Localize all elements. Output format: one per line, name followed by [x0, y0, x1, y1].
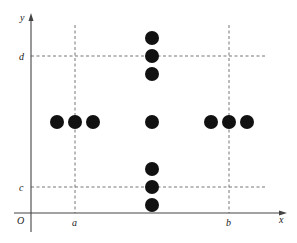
point [145, 115, 159, 129]
right-row-points [204, 115, 254, 129]
origin-label: O [17, 215, 24, 226]
point [240, 115, 254, 129]
y-axis-arrow-icon [29, 13, 34, 21]
point [145, 31, 159, 45]
x-axis-label: x [278, 214, 284, 225]
left-row-points [50, 115, 100, 129]
point [145, 180, 159, 194]
point [145, 67, 159, 81]
point [145, 49, 159, 63]
point [86, 115, 100, 129]
point [145, 162, 159, 176]
center-column-points [145, 31, 159, 212]
label-d: d [19, 51, 25, 62]
point [50, 115, 64, 129]
point [68, 115, 82, 129]
label-b: b [226, 217, 231, 228]
coordinate-diagram: y x O a b d c [0, 0, 297, 243]
point [222, 115, 236, 129]
label-a: a [72, 217, 77, 228]
point [204, 115, 218, 129]
label-c: c [19, 182, 24, 193]
y-axis-label: y [19, 12, 25, 23]
point [145, 198, 159, 212]
